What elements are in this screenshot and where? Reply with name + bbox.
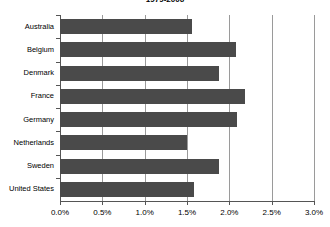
y-axis-tick bbox=[56, 178, 60, 179]
y-axis-tick bbox=[56, 15, 60, 16]
x-axis-label: 1.5% bbox=[167, 208, 207, 218]
category-label: Belgium bbox=[0, 45, 54, 54]
bar-row bbox=[60, 131, 314, 154]
bar bbox=[60, 135, 187, 150]
bar-row bbox=[60, 38, 314, 61]
bar-row bbox=[60, 85, 314, 108]
y-axis-tick bbox=[56, 62, 60, 63]
bar-row bbox=[60, 62, 314, 85]
category-label: Germany bbox=[0, 115, 54, 124]
x-axis-tick bbox=[314, 201, 315, 205]
bar bbox=[60, 19, 192, 34]
bar-row bbox=[60, 155, 314, 178]
bar bbox=[60, 159, 219, 174]
gridline bbox=[314, 15, 315, 201]
x-axis-tick bbox=[102, 201, 103, 205]
category-label: Sweden bbox=[0, 161, 54, 170]
x-axis-label: 2.0% bbox=[209, 208, 249, 218]
plot-area bbox=[60, 15, 314, 201]
x-axis-tick bbox=[145, 201, 146, 205]
bar bbox=[60, 66, 219, 81]
x-axis-label: 0.5% bbox=[82, 208, 122, 218]
bar bbox=[60, 112, 237, 127]
bar-chart: 1979-2006 0.0%0.5%1.0%1.5%2.0%2.5%3.0% A… bbox=[0, 0, 330, 227]
category-label: Denmark bbox=[0, 68, 54, 77]
bar-row bbox=[60, 108, 314, 131]
bar-row bbox=[60, 178, 314, 201]
category-label: France bbox=[0, 91, 54, 100]
x-axis-label: 0.0% bbox=[40, 208, 80, 218]
bar bbox=[60, 89, 245, 104]
category-label: Netherlands bbox=[0, 138, 54, 147]
x-axis-label: 3.0% bbox=[294, 208, 330, 218]
y-axis-tick bbox=[56, 38, 60, 39]
category-label: Australia bbox=[0, 22, 54, 31]
x-axis-label: 1.0% bbox=[125, 208, 165, 218]
bar bbox=[60, 182, 194, 197]
bar-row bbox=[60, 15, 314, 38]
x-axis-tick bbox=[60, 201, 61, 205]
y-axis-tick bbox=[56, 85, 60, 86]
x-axis-tick bbox=[187, 201, 188, 205]
y-axis-tick bbox=[56, 131, 60, 132]
y-axis-tick bbox=[56, 155, 60, 156]
y-axis-tick bbox=[56, 108, 60, 109]
bar bbox=[60, 42, 236, 57]
x-axis-tick bbox=[272, 201, 273, 205]
x-axis-tick bbox=[229, 201, 230, 205]
x-axis-label: 2.5% bbox=[252, 208, 292, 218]
category-label: United States bbox=[0, 184, 54, 193]
chart-title: 1979-2006 bbox=[0, 0, 330, 5]
